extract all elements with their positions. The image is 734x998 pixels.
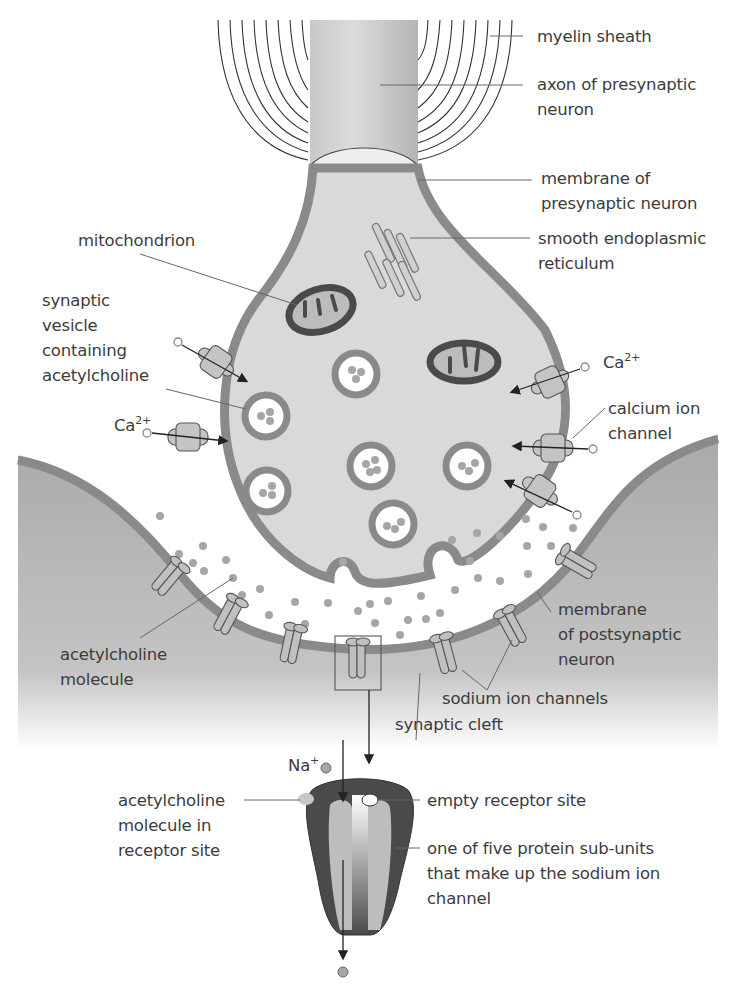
mitochondrion-2 <box>430 343 498 381</box>
na-charge: + <box>310 754 319 767</box>
label-ach-in-site: acetylcholine molecule in receptor site <box>118 788 225 863</box>
label-subunit: one of five protein sub-units that make … <box>427 836 660 911</box>
label-ca-right: Ca2+ <box>603 345 640 375</box>
ca-charge: 2+ <box>624 351 640 364</box>
label-ach-molecule: acetylcholine molecule <box>60 642 167 692</box>
ca-text: Ca <box>114 416 135 435</box>
na-text: Na <box>288 756 310 775</box>
ca-charge: 2+ <box>135 414 151 427</box>
label-ser: smooth endoplasmic reticulum <box>538 226 706 276</box>
label-calcium-channel: calcium ion channel <box>608 396 700 446</box>
axon <box>310 20 418 168</box>
label-synaptic-cleft: synaptic cleft <box>395 712 503 737</box>
label-synaptic-vesicle: synaptic vesicle containing acetylcholin… <box>42 288 149 388</box>
enlarged-sodium-channel <box>298 779 413 935</box>
label-axon: axon of presynaptic neuron <box>537 72 696 122</box>
label-na: Na+ <box>288 748 319 778</box>
label-postsynaptic-membrane: membrane of postsynaptic neuron <box>558 597 681 672</box>
label-empty-site: empty receptor site <box>427 788 586 813</box>
label-ca-left: Ca2+ <box>114 408 151 438</box>
label-sodium-channels: sodium ion channels <box>442 686 608 711</box>
label-myelin-sheath: myelin sheath <box>537 24 652 49</box>
ca-text: Ca <box>603 353 624 372</box>
label-mitochondrion: mitochondrion <box>78 228 195 253</box>
label-presynaptic-membrane: membrane of presynaptic neuron <box>541 166 697 216</box>
